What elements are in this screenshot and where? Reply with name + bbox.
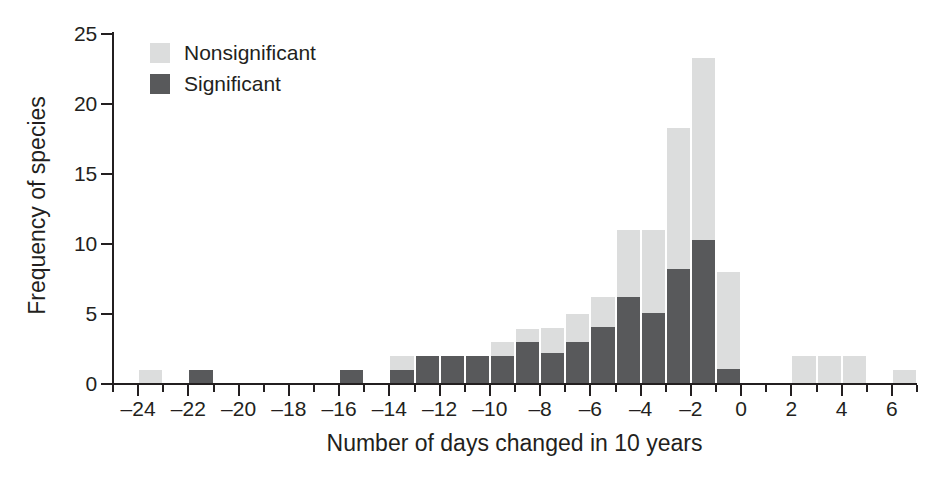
x-axis-tick-label: –6 [579, 398, 602, 419]
x-axis-tick-major [137, 385, 139, 396]
x-axis-tick-major [891, 385, 893, 396]
x-axis-tick-major [338, 385, 340, 396]
bar-segment-nonsignificant [516, 329, 539, 342]
x-axis-tick-major [640, 385, 642, 396]
x-axis-tick-label: –14 [372, 398, 407, 419]
bar-stack [566, 314, 589, 384]
x-axis-tick-minor [112, 385, 114, 392]
x-axis-tick-minor [765, 385, 767, 392]
bar-segment-nonsignificant [843, 356, 866, 384]
bar-stack [390, 356, 413, 384]
bar-segment-significant [692, 240, 715, 384]
x-axis-tick-major [489, 385, 491, 396]
bar-segment-nonsignificant [390, 356, 413, 370]
bar-stack [591, 297, 614, 384]
bar-stack [667, 128, 690, 384]
x-axis-tick-label: 4 [836, 398, 848, 419]
bar-segment-nonsignificant [642, 230, 665, 313]
bar-stack [466, 356, 489, 384]
bar-stack [340, 370, 363, 384]
bar-segment-significant [541, 353, 564, 384]
plot-area: 0510152025 Frequency of species –24–22–2… [0, 0, 929, 477]
x-axis-tick-major [238, 385, 240, 396]
bar-segment-significant [566, 342, 589, 384]
x-axis-tick-minor [363, 385, 365, 392]
bar-stack [139, 370, 162, 384]
bar-segment-significant [416, 356, 439, 384]
x-axis-tick-label: –24 [121, 398, 156, 419]
x-axis-tick-label: –8 [528, 398, 551, 419]
x-axis-title: Number of days changed in 10 years [112, 430, 917, 457]
bar-stack [491, 342, 514, 384]
x-axis-tick-major [388, 385, 390, 396]
bar-segment-significant [591, 327, 614, 384]
x-axis-tick-minor [162, 385, 164, 392]
x-axis-tick-minor [414, 385, 416, 392]
bar-stack [516, 329, 539, 384]
x-axis-tick-major [740, 385, 742, 396]
bar-segment-significant [516, 342, 539, 384]
bar-segment-nonsignificant [617, 230, 640, 297]
bar-segment-nonsignificant [893, 370, 916, 384]
bar-segment-significant [667, 269, 690, 384]
x-axis-tick-minor [866, 385, 868, 392]
x-axis-tick-major [439, 385, 441, 396]
x-axis-tick-major [690, 385, 692, 396]
x-axis-tick-minor [313, 385, 315, 392]
bar-segment-significant [466, 356, 489, 384]
x-axis-tick-minor [464, 385, 466, 392]
bar-stack [416, 356, 439, 384]
bar-segment-nonsignificant [792, 356, 815, 384]
legend-label-nonsignificant: Nonsignificant [184, 42, 316, 63]
bar-stack [642, 230, 665, 384]
x-axis-tick-minor [916, 385, 918, 392]
bar-segment-nonsignificant [139, 370, 162, 384]
bar-segment-significant [617, 297, 640, 384]
legend-label-significant: Significant [184, 73, 281, 94]
chart-legend: Nonsignificant Significant [150, 42, 316, 104]
bar-segment-nonsignificant [566, 314, 589, 342]
x-axis-tick-minor [665, 385, 667, 392]
bar-stack [189, 370, 212, 384]
legend-item-significant: Significant [150, 73, 316, 94]
legend-item-nonsignificant: Nonsignificant [150, 42, 316, 63]
bar-segment-nonsignificant [717, 272, 740, 369]
x-axis-tick-label: –22 [171, 398, 206, 419]
bar-stack [541, 328, 564, 384]
bar-segment-significant [390, 370, 413, 384]
x-axis-tick-label: –4 [629, 398, 652, 419]
x-axis-tick-major [539, 385, 541, 396]
x-axis-tick-major [589, 385, 591, 396]
bar-segment-nonsignificant [692, 58, 715, 240]
bar-stack [617, 230, 640, 384]
bar-segment-nonsignificant [541, 328, 564, 353]
bar-stack [818, 356, 841, 384]
bar-segment-significant [491, 356, 514, 384]
x-axis-tick-label: 2 [786, 398, 798, 419]
x-axis-tick-label: 0 [735, 398, 747, 419]
bar-stack [717, 272, 740, 384]
bar-stack [843, 356, 866, 384]
x-axis-tick-major [187, 385, 189, 396]
bar-segment-significant [340, 370, 363, 384]
x-axis-tick-minor [615, 385, 617, 392]
x-axis-tick-minor [514, 385, 516, 392]
histogram-chart: 0510152025 Frequency of species –24–22–2… [0, 0, 929, 477]
x-axis-tick-minor [715, 385, 717, 392]
legend-swatch-significant-icon [150, 74, 170, 94]
x-axis-tick-label: –12 [422, 398, 457, 419]
x-axis-tick-label: –2 [679, 398, 702, 419]
x-axis-tick-minor [263, 385, 265, 392]
bar-segment-nonsignificant [491, 342, 514, 356]
bar-segment-nonsignificant [591, 297, 614, 326]
bar-segment-significant [642, 313, 665, 384]
x-axis-tick-label: –10 [472, 398, 507, 419]
bar-stack [792, 356, 815, 384]
bar-segment-significant [189, 370, 212, 384]
bar-segment-significant [441, 356, 464, 384]
bar-stack [692, 58, 715, 384]
x-axis-tick-major [841, 385, 843, 396]
x-axis-tick-label: –16 [322, 398, 357, 419]
bar-segment-nonsignificant [818, 356, 841, 384]
x-axis-tick-label: 6 [886, 398, 898, 419]
